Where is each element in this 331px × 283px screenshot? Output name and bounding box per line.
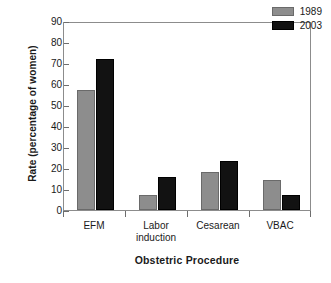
x-tick-mark (310, 211, 311, 217)
bar (263, 180, 281, 210)
y-tick-mark (64, 22, 69, 23)
y-tick-mark (64, 148, 69, 149)
x-tick-mark (249, 211, 250, 217)
legend-swatch (272, 21, 294, 30)
y-tick-mark (64, 85, 69, 86)
x-category-label: EFM (63, 220, 125, 232)
bar (96, 59, 114, 210)
legend-label: 1989 (300, 6, 322, 17)
bar (220, 161, 238, 210)
y-tick-mark (64, 64, 69, 65)
legend-swatch (272, 7, 294, 16)
y-tick-mark (64, 127, 69, 128)
bar (77, 90, 95, 210)
x-category-label: VBAC (249, 220, 311, 232)
legend-item: 1989 (272, 5, 322, 17)
bar (282, 195, 300, 210)
legend-label: 2003 (300, 20, 322, 31)
bar-chart-figure: Rate (percentage of women) 0102030405060… (0, 0, 331, 283)
legend-item: 2003 (272, 19, 322, 31)
y-tick-label: 0 (56, 205, 62, 217)
y-tick-mark (64, 106, 69, 107)
bar (139, 195, 157, 210)
bar (201, 172, 219, 210)
x-tick-mark (187, 211, 188, 217)
x-tick-mark (125, 211, 126, 217)
x-category-label: Cesarean (187, 220, 249, 232)
y-tick-label: 80 (51, 37, 62, 49)
plot-area: 0102030405060708090 (63, 22, 311, 211)
y-tick-mark (64, 169, 69, 170)
x-axis-title: Obstetric Procedure (63, 254, 311, 266)
y-tick-label: 50 (51, 100, 62, 112)
legend: 19892003 (272, 5, 322, 33)
y-tick-label: 40 (51, 121, 62, 133)
y-tick-label: 10 (51, 184, 62, 196)
y-tick-mark (64, 43, 69, 44)
y-tick-label: 60 (51, 79, 62, 91)
y-axis-title: Rate (percentage of women) (27, 19, 38, 209)
x-category-label: Labor induction (125, 220, 187, 244)
y-tick-label: 90 (51, 16, 62, 28)
y-tick-mark (64, 190, 69, 191)
bar (158, 177, 176, 210)
x-tick-mark (63, 211, 64, 217)
y-tick-label: 70 (51, 58, 62, 70)
y-tick-label: 20 (51, 163, 62, 175)
y-tick-label: 30 (51, 142, 62, 154)
